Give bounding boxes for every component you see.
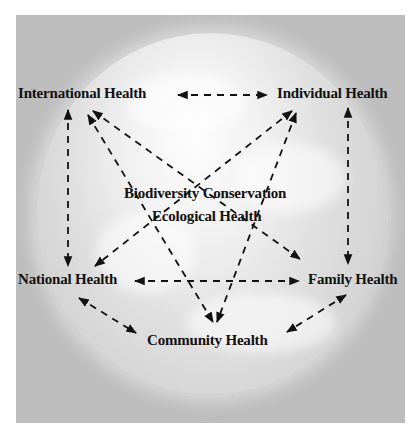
node-biodiversity-conservation: Biodiversity Conservation (124, 185, 286, 202)
arrow-national-community (79, 298, 136, 333)
node-individual-health: Individual Health (277, 85, 387, 102)
arrow-family-community (287, 295, 346, 332)
node-ecological-health: Ecological Health (152, 208, 262, 225)
node-family-health: Family Health (308, 271, 397, 288)
node-national-health: National Health (18, 271, 117, 288)
node-community-health: Community Health (147, 332, 268, 349)
node-international-health: International Health (18, 85, 146, 102)
